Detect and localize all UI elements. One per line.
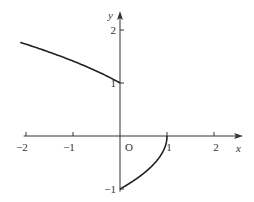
x-axis-label: x (235, 142, 241, 154)
x-tick-label: −2 (16, 141, 28, 153)
function-graph: −2−11221−1Oxy (0, 0, 254, 202)
x-tick-label: 1 (166, 141, 172, 153)
y-tick-label: 2 (111, 24, 117, 36)
y-axis-label: y (107, 9, 113, 21)
x-tick-label: 2 (213, 141, 219, 153)
upper-branch-curve (20, 42, 120, 83)
y-tick-label: −1 (104, 183, 116, 195)
x-tick-label: −1 (63, 141, 75, 153)
origin-label: O (125, 141, 133, 153)
